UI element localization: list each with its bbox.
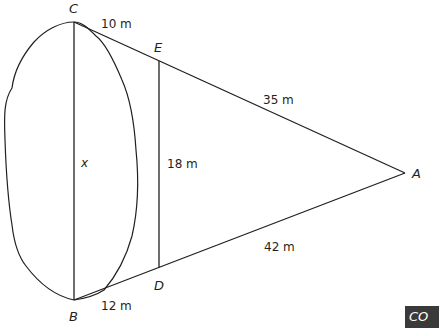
- measure-cb: x: [80, 156, 89, 170]
- measure-ed: 18 m: [167, 157, 198, 171]
- measure-da: 42 m: [264, 240, 295, 254]
- point-e-label: E: [154, 40, 163, 55]
- measure-ea: 35 m: [263, 93, 294, 107]
- point-c-label: C: [69, 1, 79, 16]
- point-a-label: A: [411, 166, 421, 181]
- measure-bd: 12 m: [101, 299, 132, 313]
- lake-outline: [5, 22, 138, 300]
- measure-ce: 10 m: [101, 17, 132, 31]
- segment-ca: [74, 22, 405, 173]
- corner-badge: CO: [405, 306, 439, 328]
- point-d-label: D: [154, 278, 164, 293]
- segment-ba: [74, 173, 405, 300]
- point-b-label: B: [69, 309, 78, 324]
